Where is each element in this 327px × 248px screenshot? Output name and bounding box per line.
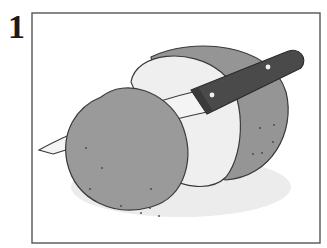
handle-rivet [266,65,271,70]
illustration-frame [31,12,321,244]
handle-rivet [210,93,215,98]
potato-slicing-illustration [31,12,321,244]
step-number: 1 [8,10,25,44]
